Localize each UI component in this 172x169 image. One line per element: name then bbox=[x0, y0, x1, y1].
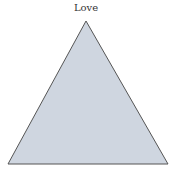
love-triangle bbox=[8, 21, 168, 164]
triangle-diagram bbox=[0, 0, 172, 169]
